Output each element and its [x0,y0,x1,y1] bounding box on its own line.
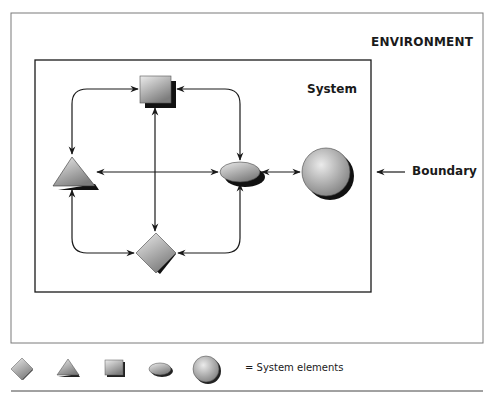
connector-triangle-diamond [72,190,134,253]
circle-element-icon [302,148,354,200]
environment-label: ENVIRONMENT [371,35,473,49]
legend-text: = System elements [245,362,343,373]
legend-square-icon [105,360,125,377]
legend-triangle-icon [57,359,80,377]
legend [11,356,221,384]
ellipse-element-icon [220,162,265,187]
boundary-label: Boundary [412,164,477,178]
connector-triangle-square [72,89,138,154]
connector-diamond-ellipse [178,184,240,253]
legend-ellipse-icon [149,363,173,377]
system-label: System [307,82,357,96]
legend-diamond-icon [11,358,33,380]
diamond-element-icon [136,233,176,274]
connector-square-ellipse [177,89,240,160]
legend-circle-icon [193,356,221,384]
square-element-icon [140,76,176,108]
system-diagram [0,0,495,402]
triangle-element-icon [53,157,99,190]
